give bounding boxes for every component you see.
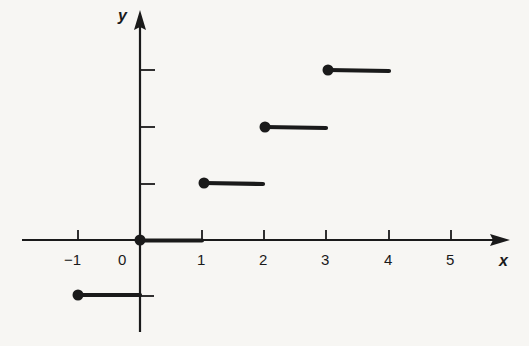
origin-label: 0 bbox=[118, 251, 126, 268]
closed-dot-icon bbox=[199, 178, 210, 189]
y-axis-arrow-icon bbox=[134, 10, 146, 30]
step-segment-y-3 bbox=[323, 65, 390, 76]
closed-dot-icon bbox=[73, 290, 84, 301]
step-segment-y-neg1 bbox=[73, 290, 141, 301]
step-segment-y-2 bbox=[260, 122, 327, 133]
step-segment-y-1 bbox=[199, 178, 264, 189]
y-axis bbox=[134, 10, 155, 332]
x-tick-labels: −1 0 1 2 3 4 5 bbox=[64, 251, 454, 268]
x-axis-arrow-icon bbox=[490, 234, 510, 246]
y-axis-label: y bbox=[117, 7, 128, 24]
closed-dot-icon bbox=[323, 65, 334, 76]
x-tick-label-1: 1 bbox=[197, 251, 205, 268]
x-tick-label-neg1: −1 bbox=[64, 251, 81, 268]
x-axis bbox=[22, 230, 510, 246]
x-tick-label-3: 3 bbox=[321, 251, 329, 268]
x-tick-label-5: 5 bbox=[446, 251, 454, 268]
x-axis-label: x bbox=[498, 252, 509, 269]
x-tick-label-2: 2 bbox=[259, 251, 267, 268]
step-segment-y-0 bbox=[135, 235, 203, 246]
step-function-chart: −1 0 1 2 3 4 5 x y bbox=[0, 0, 529, 346]
closed-dot-icon bbox=[135, 235, 146, 246]
closed-dot-icon bbox=[260, 122, 271, 133]
x-tick-label-4: 4 bbox=[384, 251, 392, 268]
